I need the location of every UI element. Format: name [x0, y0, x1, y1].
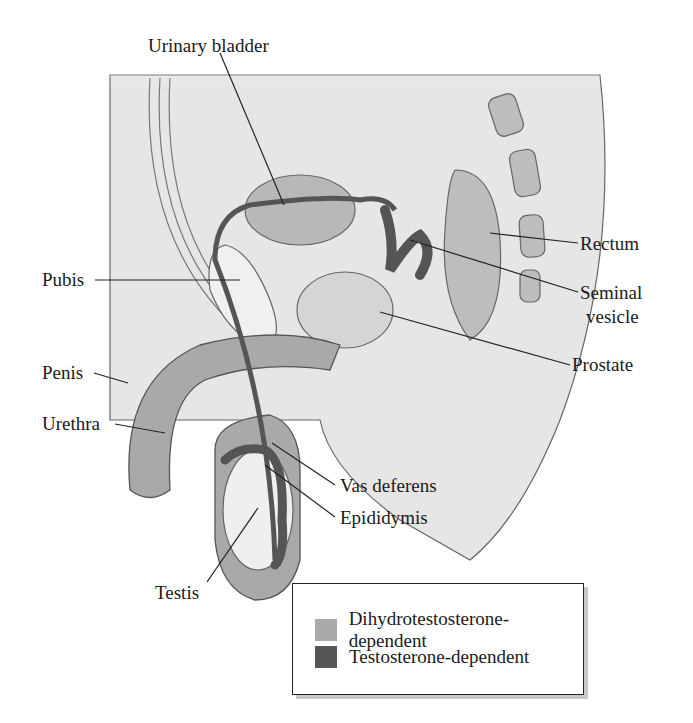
label-seminal-vesicle-line2: vesicle — [586, 306, 639, 328]
label-penis: Penis — [42, 362, 83, 384]
label-vas-deferens: Vas deferens — [340, 475, 437, 497]
legend-label-testosterone: Testosterone-dependent — [349, 646, 529, 668]
label-urinary-bladder: Urinary bladder — [148, 35, 269, 57]
label-prostate: Prostate — [572, 354, 633, 376]
diagram-canvas: Urinary bladder Pubis Rectum Seminal ves… — [0, 0, 693, 723]
label-epididymis: Epididymis — [340, 507, 428, 529]
label-pubis: Pubis — [42, 269, 84, 291]
label-urethra: Urethra — [42, 413, 100, 435]
label-seminal-vesicle-line1: Seminal — [580, 282, 642, 304]
legend: Dihydrotestosterone-dependent Testostero… — [292, 583, 584, 695]
label-rectum: Rectum — [580, 233, 639, 255]
label-testis: Testis — [155, 582, 199, 604]
dht-swatch — [315, 619, 337, 641]
testosterone-swatch — [315, 646, 337, 668]
legend-item-testosterone: Testosterone-dependent — [315, 646, 529, 668]
